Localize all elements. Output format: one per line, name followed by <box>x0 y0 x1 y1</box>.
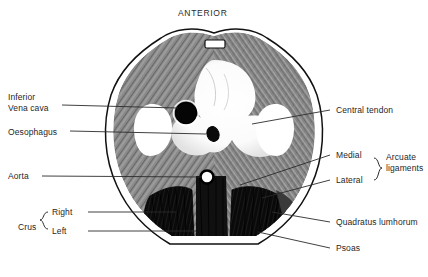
sternum-xiphoid <box>205 40 225 48</box>
label-oesophagus: Oesophagus <box>8 127 57 138</box>
right-lateral-tendon-band <box>256 104 294 156</box>
label-crus: Crus <box>18 222 36 233</box>
inferior-vena-cava-opening <box>176 103 197 124</box>
label-quadratus-lumborum: Quadratus lumhorum <box>336 217 418 228</box>
label-arcuate-ligaments-line1: Arcuate <box>386 152 423 163</box>
label-central-tendon: Central tendon <box>336 105 393 116</box>
label-inferior-vena-cava-line1: Inferior <box>8 92 49 103</box>
label-lateral: Lateral <box>336 175 363 186</box>
label-arcuate-ligaments-line2: ligaments <box>386 163 423 174</box>
label-aorta: Aorta <box>8 171 29 182</box>
label-crus-right: Right <box>52 207 72 218</box>
label-inferior-vena-cava-line2: Vena cava <box>8 103 49 114</box>
label-medial: Medial <box>336 150 362 161</box>
brace-arcuate-ligaments <box>374 158 382 180</box>
label-psoas: Psoas <box>336 243 360 254</box>
aortic-opening <box>201 171 214 184</box>
label-arcuate-ligaments: Arcuate ligaments <box>386 152 423 174</box>
label-inferior-vena-cava: Inferior Vena cava <box>8 92 49 114</box>
leader-psoas <box>258 232 330 248</box>
label-crus-left: Left <box>52 226 67 237</box>
brace-crus <box>40 212 48 229</box>
